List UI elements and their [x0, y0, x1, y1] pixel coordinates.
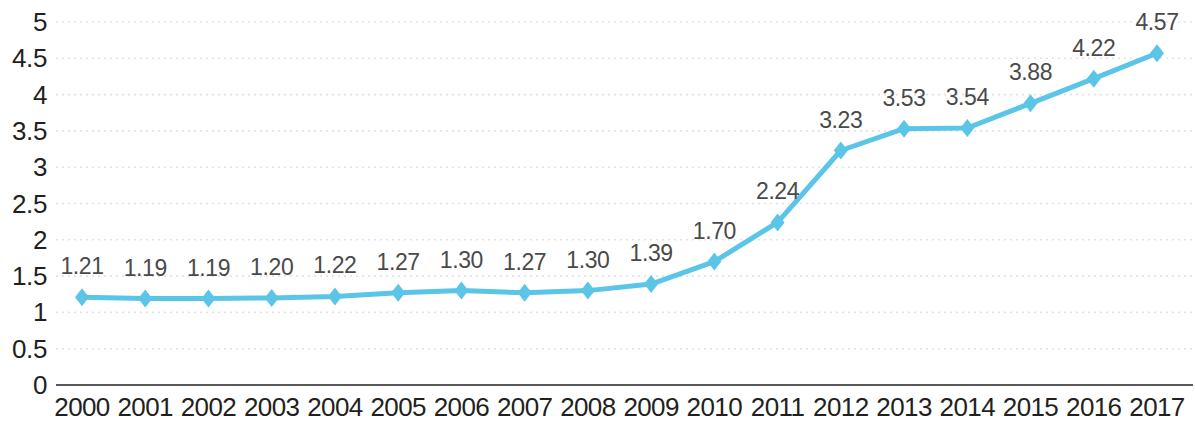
data-point-marker	[201, 290, 215, 308]
y-axis-tick-label: 4	[0, 82, 47, 108]
data-point-marker	[265, 289, 279, 307]
data-point-value-label: 1.27	[363, 251, 433, 274]
data-point-value-label: 1.30	[426, 249, 496, 272]
line-chart: 00.511.522.533.544.55 200020012002200320…	[0, 0, 1195, 424]
y-axis-tick-label: 3	[0, 154, 47, 180]
data-point-value-label: 3.54	[932, 86, 1002, 109]
data-point-marker	[1024, 94, 1038, 112]
data-point-marker	[518, 284, 532, 302]
x-axis-tick-label: 2017	[1119, 394, 1195, 420]
data-point-value-label: 1.27	[490, 251, 560, 274]
y-axis-tick-label: 1	[0, 299, 47, 325]
y-axis-tick-label: 0.5	[0, 336, 47, 362]
data-point-value-label: 2.24	[743, 180, 813, 203]
data-point-marker	[707, 253, 721, 271]
data-point-marker	[391, 284, 405, 302]
y-axis-tick-label: 2	[0, 227, 47, 253]
data-point-value-label: 1.30	[553, 249, 623, 272]
data-point-value-label: 1.22	[300, 254, 370, 277]
data-point-marker	[581, 282, 595, 300]
data-point-value-label: 1.39	[616, 242, 686, 265]
data-point-value-label: 1.20	[237, 256, 307, 279]
data-point-marker	[1087, 70, 1101, 88]
data-point-value-label: 4.22	[1059, 37, 1129, 60]
y-axis-tick-label: 5	[0, 9, 47, 35]
data-point-value-label: 4.57	[1122, 11, 1192, 34]
data-point-value-label: 1.70	[679, 220, 749, 243]
y-axis-tick-label: 3.5	[0, 118, 47, 144]
data-point-marker	[644, 275, 658, 293]
data-point-marker	[897, 120, 911, 138]
data-point-marker	[1150, 44, 1164, 62]
y-axis-tick-label: 0	[0, 372, 47, 398]
y-axis-tick-label: 4.5	[0, 45, 47, 71]
data-point-marker	[138, 290, 152, 308]
data-point-marker	[75, 288, 89, 306]
data-point-value-label: 1.21	[47, 255, 117, 278]
data-point-value-label: 3.23	[806, 109, 876, 132]
data-point-marker	[454, 282, 468, 300]
data-point-value-label: 1.19	[110, 257, 180, 280]
data-point-value-label: 3.53	[869, 87, 939, 110]
y-axis-tick-label: 1.5	[0, 263, 47, 289]
y-axis-tick-label: 2.5	[0, 191, 47, 217]
data-point-value-label: 1.19	[173, 257, 243, 280]
data-point-marker	[960, 119, 974, 137]
data-point-marker	[328, 287, 342, 305]
data-point-value-label: 3.88	[996, 61, 1066, 84]
